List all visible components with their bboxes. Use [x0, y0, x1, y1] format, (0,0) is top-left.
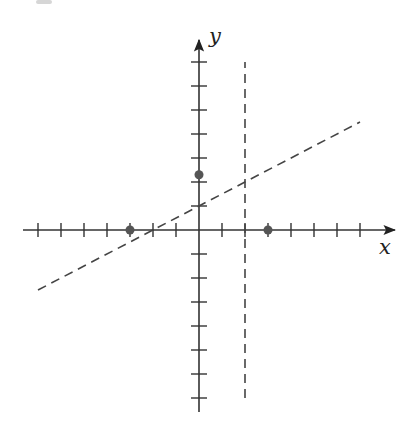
point-marker — [264, 226, 273, 235]
y-axis-label: y — [208, 24, 222, 48]
point-marker — [195, 170, 204, 179]
x-axis-label: x — [379, 235, 391, 259]
coordinate-plane: x y — [0, 0, 417, 436]
point-marker — [126, 226, 135, 235]
